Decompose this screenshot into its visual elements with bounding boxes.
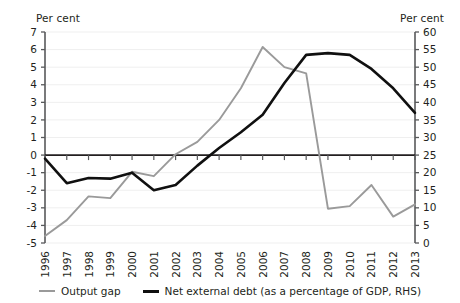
right-axis-tick-label: 20	[423, 166, 436, 178]
right-axis-tick-label: 25	[423, 149, 436, 161]
x-axis-tick-label: 2012	[387, 251, 399, 278]
left-axis-tick-label: -5	[27, 237, 37, 249]
left-axis-tick-label: 4	[30, 78, 37, 90]
right-axis-tick-label: 10	[423, 201, 436, 213]
x-axis-tick-label: 2013	[409, 251, 421, 278]
left-axis-tick-label: 3	[30, 96, 37, 108]
x-axis-tick-label: 2000	[126, 251, 138, 278]
left-axis-tick-label: -1	[27, 166, 37, 178]
left-axis-tick-label: 6	[30, 43, 37, 55]
right-axis-tick-label: 30	[423, 131, 436, 143]
chart-plot-area: 76543210-1-2-3-4-5 605550454035302520151…	[0, 0, 460, 303]
right-axis-tick-label: 15	[423, 184, 436, 196]
x-axis-tick-label: 1997	[61, 251, 73, 278]
right-axis-tick-label: 60	[423, 26, 436, 38]
x-axis-tick-label: 2006	[257, 251, 269, 278]
left-axis-tick-label: 1	[30, 131, 37, 143]
left-axis-tick-label: 5	[30, 61, 37, 73]
x-axis-tick-label: 2001	[148, 251, 160, 278]
chart-container: Per cent Per cent 76543210-1-2-3-4-5 605…	[0, 0, 460, 303]
right-axis-tick-label: 40	[423, 96, 436, 108]
right-axis-tick-label: 5	[423, 219, 430, 231]
x-axis-tick-label: 2008	[300, 251, 312, 278]
right-axis-tick-label: 55	[423, 43, 436, 55]
x-axis-tick-label: 2011	[365, 251, 377, 278]
x-axis-tick-label: 2010	[344, 251, 356, 278]
left-axis-tick-label: 7	[30, 26, 37, 38]
chart-legend: Output gap Net external debt (as a perce…	[0, 285, 460, 297]
x-axis-tick-label: 2009	[322, 251, 334, 278]
x-axis-tick-label: 2007	[278, 251, 290, 278]
left-axis-tick-label: -3	[27, 201, 37, 213]
x-axis-tick-label: 1999	[104, 251, 116, 278]
legend-item-net-external-debt: Net external debt (as a percentage of GD…	[143, 285, 421, 297]
series-line-net-external-debt	[45, 53, 415, 190]
legend-label-output-gap: Output gap	[61, 285, 121, 297]
x-axis-tick-label: 2003	[191, 251, 203, 278]
left-axis: 76543210-1-2-3-4-5	[27, 26, 45, 249]
x-axis-tick-label: 1996	[39, 251, 51, 278]
right-axis-tick-label: 35	[423, 114, 436, 126]
x-axis: 1996199719981999200020012002200320042005…	[39, 155, 421, 278]
right-axis-tick-label: 0	[423, 237, 430, 249]
x-axis-tick-label: 1998	[83, 251, 95, 278]
left-axis-tick-label: 2	[30, 114, 37, 126]
x-axis-tick-label: 2002	[170, 251, 182, 278]
x-axis-tick-label: 2005	[235, 251, 247, 278]
left-axis-tick-label: 0	[30, 149, 37, 161]
legend-item-output-gap: Output gap	[39, 285, 121, 297]
legend-swatch-icon-net-external-debt	[143, 290, 159, 293]
right-axis-tick-label: 45	[423, 78, 436, 90]
left-axis-tick-label: -2	[27, 184, 37, 196]
x-axis-tick-label: 2004	[213, 251, 225, 278]
right-axis: 605550454035302520151050	[415, 26, 436, 249]
legend-swatch-icon-output-gap	[39, 290, 55, 292]
legend-label-net-external-debt: Net external debt (as a percentage of GD…	[165, 285, 421, 297]
right-axis-tick-label: 50	[423, 61, 436, 73]
left-axis-tick-label: -4	[27, 219, 38, 231]
gridlines-group	[45, 32, 415, 243]
